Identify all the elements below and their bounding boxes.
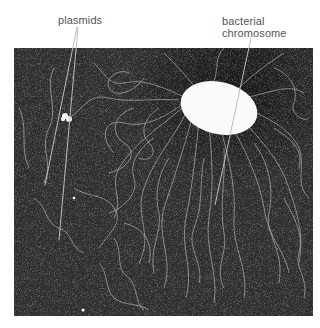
- micrograph-image: [14, 48, 313, 316]
- label-bacterial: bacterial: [222, 15, 287, 27]
- label-chromosome: chromosome: [222, 27, 287, 39]
- label-bacterial-chromosome: bacterial chromosome: [222, 15, 287, 39]
- figure: plasmids bacterial chromosome: [0, 0, 320, 328]
- label-plasmids: plasmids: [58, 14, 102, 26]
- electron-micrograph: [14, 48, 313, 316]
